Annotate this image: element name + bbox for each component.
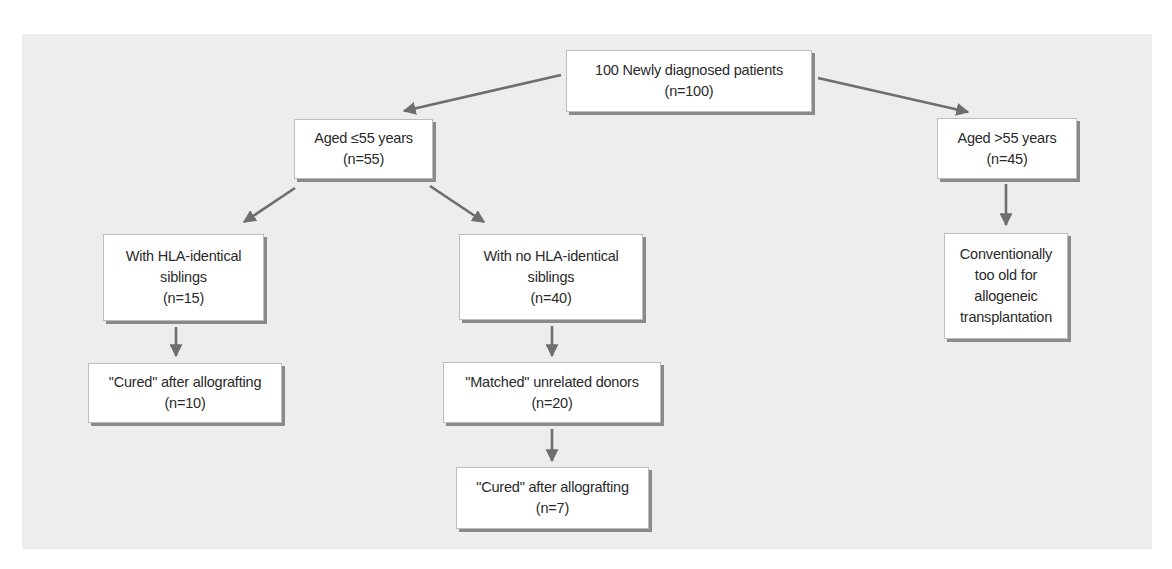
node-count: (n=40)	[530, 288, 571, 309]
node-aged-gt55: Aged >55 years (n=45)	[937, 118, 1077, 179]
node-label: Aged ≤55 years	[314, 128, 413, 149]
node-label: 100 Newly diagnosed patients	[595, 60, 783, 81]
arrow-root-to-aged-le55	[404, 75, 561, 111]
node-with-hla-siblings: With HLA-identical siblings (n=15)	[103, 234, 264, 321]
node-cured-sibling: "Cured" after allografting (n=10)	[88, 363, 282, 423]
node-count: (n=45)	[986, 149, 1027, 170]
node-count: (n=20)	[531, 393, 572, 414]
arrow-aged-le55-to-no-hla	[430, 186, 484, 222]
node-label: "Cured" after allografting	[109, 372, 262, 393]
node-label: Aged >55 years	[957, 128, 1056, 149]
node-matched-unrelated: "Matched" unrelated donors (n=20)	[443, 362, 661, 423]
node-label: siblings	[160, 267, 207, 288]
node-newly-diagnosed: 100 Newly diagnosed patients (n=100)	[566, 50, 812, 112]
node-count: (n=100)	[665, 81, 714, 102]
arrow-aged-le55-to-with-hla	[244, 188, 295, 222]
node-count: (n=55)	[343, 149, 384, 170]
arrow-root-to-aged-gt55	[818, 78, 968, 112]
node-count: (n=10)	[164, 393, 205, 414]
node-count: (n=7)	[536, 498, 569, 519]
node-label: allogeneic	[974, 286, 1037, 307]
node-label: With HLA-identical	[126, 246, 242, 267]
node-label: too old for	[975, 265, 1037, 286]
node-aged-le55: Aged ≤55 years (n=55)	[294, 119, 433, 179]
node-too-old: Conventionally too old for allogeneic tr…	[944, 233, 1068, 339]
node-label: "Cured" after allografting	[476, 477, 629, 498]
node-count: (n=15)	[163, 288, 204, 309]
node-label: Conventionally	[960, 244, 1052, 265]
node-label: siblings	[528, 267, 575, 288]
node-label: "Matched" unrelated donors	[465, 372, 639, 393]
node-cured-unrelated: "Cured" after allografting (n=7)	[456, 467, 649, 529]
node-label: With no HLA-identical	[483, 246, 618, 267]
node-label: transplantation	[960, 307, 1052, 328]
node-no-hla-siblings: With no HLA-identical siblings (n=40)	[459, 234, 643, 320]
